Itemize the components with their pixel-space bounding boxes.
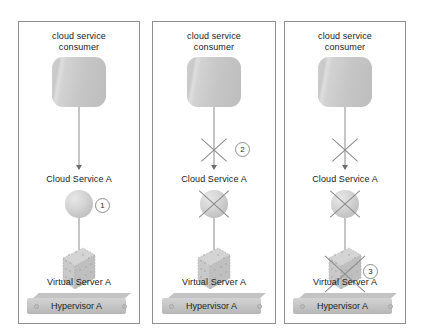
consumer-to-service-connector [79, 107, 80, 169]
cloud-service-consumer-shape [187, 57, 241, 107]
arrowhead-icon [211, 165, 217, 170]
cross-mark-connector-icon [328, 135, 362, 165]
hypervisor-shape: Hypervisor A [293, 293, 397, 314]
consumer-label: cloud service consumer [153, 31, 275, 53]
arrowhead-icon [342, 165, 348, 170]
hypervisor-shape: Hypervisor A [27, 293, 131, 314]
hypervisor-label: Hypervisor A [27, 298, 126, 314]
callout-2: 2 [235, 142, 250, 157]
diagram-canvas: cloud service consumer Cloud Service A 1 [0, 0, 424, 336]
virtual-server-label: Virtual Server A [153, 277, 275, 288]
callout-1: 1 [95, 198, 110, 213]
cloud-service-label: Cloud Service A [153, 174, 275, 185]
scenario-panel-1: cloud service consumer Cloud Service A 1 [18, 21, 140, 324]
virtual-server-label: Virtual Server A [285, 277, 405, 288]
scenario-panel-3: cloud service consumer Cloud Service A [284, 21, 406, 324]
cloud-service-sphere [65, 190, 93, 218]
cloud-service-consumer-shape [52, 57, 106, 107]
scenario-panel-2: cloud service consumer 2 Cloud Service A [152, 21, 276, 324]
cloud-service-label: Cloud Service A [285, 174, 405, 185]
virtual-server-cube [191, 244, 237, 296]
hypervisor-label: Hypervisor A [293, 298, 392, 314]
virtual-server-cube [56, 244, 102, 296]
cloud-service-label: Cloud Service A [19, 174, 139, 185]
consumer-label: cloud service consumer [19, 31, 139, 53]
cross-mark-connector-icon [197, 135, 231, 165]
virtual-server-label: Virtual Server A [19, 277, 139, 288]
arrowhead-icon [76, 165, 82, 170]
cloud-service-consumer-shape [318, 57, 372, 107]
consumer-label: cloud service consumer [285, 31, 405, 53]
hypervisor-label: Hypervisor A [162, 298, 261, 314]
hypervisor-shape: Hypervisor A [162, 293, 266, 314]
